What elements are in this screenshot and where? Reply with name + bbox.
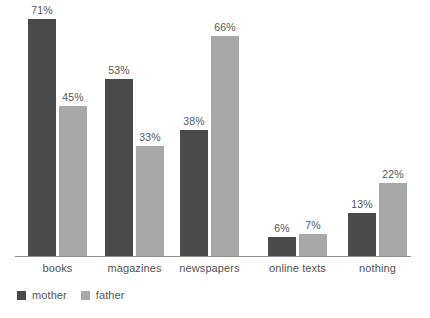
bar-online-texts-father[interactable]: 7% bbox=[299, 234, 327, 257]
bar-fill bbox=[105, 79, 133, 257]
plot-area: 71%45%53%33%38%66%6%7%13%22% bbox=[15, 0, 411, 257]
x-axis-category-labels: booksmagazinesnewspapersonline textsnoth… bbox=[15, 262, 411, 282]
bar-value-label: 13% bbox=[351, 198, 372, 210]
bar-fill bbox=[268, 237, 296, 257]
bar-fill bbox=[299, 234, 327, 257]
bar-chart: 71%45%53%33%38%66%6%7%13%22% booksmagazi… bbox=[0, 0, 430, 318]
legend-swatch-mother bbox=[17, 291, 26, 300]
bar-fill bbox=[211, 36, 239, 257]
chart-legend: motherfather bbox=[17, 290, 125, 301]
bar-group-nothing: 13%22% bbox=[348, 0, 407, 257]
bar-group-books: 71%45% bbox=[28, 0, 87, 257]
bar-newspapers-mother[interactable]: 38% bbox=[180, 130, 208, 257]
bar-group-newspapers: 38%66% bbox=[180, 0, 239, 257]
bar-fill bbox=[28, 19, 56, 257]
bar-value-label: 22% bbox=[382, 168, 403, 180]
bar-fill bbox=[59, 106, 87, 257]
bar-nothing-father[interactable]: 22% bbox=[379, 183, 407, 257]
category-label-nothing: nothing bbox=[318, 262, 430, 274]
bar-value-label: 71% bbox=[31, 4, 52, 16]
bar-value-label: 45% bbox=[62, 91, 83, 103]
bar-magazines-father[interactable]: 33% bbox=[136, 146, 164, 257]
legend-item-mother[interactable]: mother bbox=[17, 290, 67, 301]
x-axis-baseline bbox=[15, 256, 411, 257]
bar-value-label: 66% bbox=[214, 21, 235, 33]
bar-fill bbox=[348, 213, 376, 257]
bar-group-online-texts: 6%7% bbox=[268, 0, 327, 257]
bar-books-father[interactable]: 45% bbox=[59, 106, 87, 257]
bar-fill bbox=[180, 130, 208, 257]
legend-label: mother bbox=[32, 290, 67, 301]
bar-value-label: 38% bbox=[183, 115, 204, 127]
legend-swatch-father bbox=[81, 291, 90, 300]
bar-group-magazines: 53%33% bbox=[105, 0, 164, 257]
bar-newspapers-father[interactable]: 66% bbox=[211, 36, 239, 257]
bar-value-label: 53% bbox=[108, 64, 129, 76]
bar-books-mother[interactable]: 71% bbox=[28, 19, 56, 257]
legend-label: father bbox=[96, 290, 125, 301]
bar-fill bbox=[379, 183, 407, 257]
bar-online-texts-mother[interactable]: 6% bbox=[268, 237, 296, 257]
bar-value-label: 6% bbox=[274, 222, 289, 234]
bar-nothing-mother[interactable]: 13% bbox=[348, 213, 376, 257]
bar-magazines-mother[interactable]: 53% bbox=[105, 79, 133, 257]
legend-item-father[interactable]: father bbox=[81, 290, 125, 301]
bar-value-label: 33% bbox=[139, 131, 160, 143]
bar-fill bbox=[136, 146, 164, 257]
bar-value-label: 7% bbox=[305, 219, 320, 231]
